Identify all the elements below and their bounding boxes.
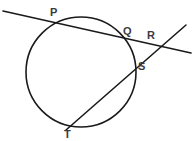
vertex-label-r: R [147, 30, 155, 41]
geometry-canvas [0, 0, 195, 141]
vertex-label-t: T [64, 129, 71, 140]
vertex-label-q: Q [123, 26, 132, 37]
secant-line-pqr [3, 11, 191, 53]
geometry-diagram: P Q R S T [0, 0, 195, 141]
circle-shape [26, 17, 136, 127]
vertex-label-p: P [50, 7, 57, 18]
vertex-label-s: S [138, 61, 145, 72]
